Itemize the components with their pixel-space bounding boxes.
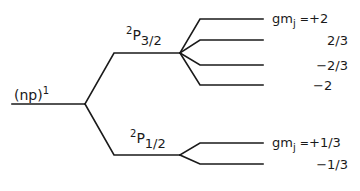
sublevel-value: +2 — [309, 11, 328, 26]
term-letter: P — [132, 27, 140, 43]
p32-branch — [85, 53, 180, 104]
term-j: 3/2 — [141, 33, 162, 48]
p12-sublevel-1 — [180, 143, 263, 155]
sublevel-value-p32-4: −2 — [313, 79, 332, 92]
sublevel-value: +1/3 — [309, 135, 341, 150]
equals-sign: = — [300, 137, 309, 150]
j-subscript: j — [293, 142, 296, 153]
configuration-label: (np)1 — [14, 86, 49, 102]
sublevel-value-p32-2: 2/3 — [278, 34, 348, 47]
sublevel-value-p32-3: −2/3 — [278, 59, 348, 72]
term-letter: P — [136, 130, 144, 146]
configuration-text: (np) — [14, 87, 43, 103]
p12-sublevel-2 — [180, 155, 263, 164]
configuration-superscript: 1 — [43, 85, 49, 96]
term-label-p32: 2P3/2 — [126, 26, 162, 47]
p32-sublevel-4 — [180, 53, 263, 85]
gmj-label-p32: gmj =+2 — [272, 12, 328, 29]
sublevel-value-p12-2: −1/3 — [278, 158, 348, 171]
gm-text: gm — [272, 135, 293, 150]
term-j: 1/2 — [145, 136, 166, 151]
p32-sublevel-1 — [180, 19, 263, 53]
p32-sublevel-2 — [180, 40, 263, 53]
term-label-p12: 2P1/2 — [130, 129, 166, 150]
gm-text: gm — [272, 11, 293, 26]
p32-sublevel-3 — [180, 53, 263, 65]
j-subscript: j — [293, 18, 296, 29]
gmj-label-p12: gmj =+1/3 — [272, 136, 341, 153]
equals-sign: = — [300, 13, 309, 26]
